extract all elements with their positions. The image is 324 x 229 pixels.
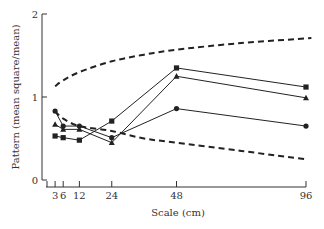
triangle-marker	[174, 73, 180, 79]
plot-area	[52, 38, 311, 159]
y-tick-label: 1	[32, 92, 38, 103]
chart: 012 3612244896 Scale (cm) Pattern (mean …	[0, 0, 324, 229]
square-marker	[77, 138, 82, 143]
square-marker	[303, 84, 308, 89]
square-marker	[61, 135, 66, 140]
x-tick-labels: 3612244896	[47, 181, 312, 201]
y-tick-label: 2	[32, 9, 38, 20]
circle-marker	[303, 123, 308, 128]
circle-series	[52, 106, 308, 140]
x-axis-title: Scale (cm)	[151, 207, 205, 218]
x-tick-label: 3	[52, 190, 58, 201]
y-tick-label: 0	[32, 175, 38, 186]
y-tick-labels: 012	[32, 9, 38, 186]
square-marker	[174, 65, 179, 70]
y-axis-title: Pattern (mean square/mean)	[10, 24, 21, 169]
x-tick-label: 24	[105, 190, 118, 201]
upper-bound	[55, 38, 311, 86]
x-tick-label: 6	[60, 190, 66, 201]
x-tick-label: 12	[73, 190, 86, 201]
circle-marker	[174, 106, 179, 111]
triangle-marker	[52, 121, 58, 127]
x-tick-label: 96	[300, 190, 313, 201]
x-tick-label: 48	[170, 190, 183, 201]
circle-series-line	[55, 109, 306, 138]
square-series-line	[55, 68, 306, 140]
square-marker	[52, 133, 57, 138]
axes	[42, 14, 306, 187]
upper-bound-line	[55, 38, 311, 86]
square-marker	[109, 118, 114, 123]
